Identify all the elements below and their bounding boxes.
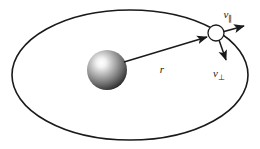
radius-label-text: r [160, 63, 165, 75]
velocity-perpendicular-subscript: ⊥ [218, 73, 225, 82]
velocity-parallel-label: v∥ [224, 8, 233, 23]
radius-label: r [160, 63, 165, 75]
orbiting-particle [208, 25, 224, 41]
velocity-parallel-subscript: ∥ [228, 14, 232, 23]
orbital-diagram-figure: r v∥ v⊥ [0, 0, 260, 149]
central-sphere [87, 50, 127, 90]
diagram-canvas: r v∥ v⊥ [0, 0, 260, 149]
